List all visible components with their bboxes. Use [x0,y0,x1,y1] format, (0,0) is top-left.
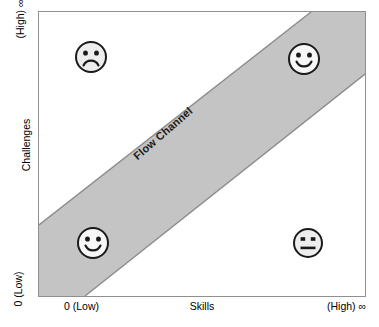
y-axis-title-text: Challenges [20,119,32,172]
flow-channel-figure: (High) ∞ Challenges 0 (Low) Flow Channel [0,0,379,327]
smiley-face-low-icon [76,226,110,260]
y-axis-high-label-text: (High) ∞ [14,0,26,39]
y-axis-low-label-text: 0 (Low) [12,271,24,306]
y-axis-high-label: (High) ∞ [0,13,36,25]
smiley-face-high-icon [287,42,321,76]
x-axis-high-label: (High) ∞ [327,300,366,312]
y-axis-title: Challenges [0,139,36,151]
x-axis-labels: 0 (Low) Skills (High) ∞ [38,300,366,320]
plot-area: Flow Channel [38,11,366,297]
y-axis-labels: (High) ∞ Challenges 0 (Low) [0,11,36,297]
sad-face-icon [74,40,108,74]
x-axis-title: Skills [190,300,215,312]
x-axis-low-label: 0 (Low) [64,300,99,312]
neutral-face-icon [291,226,325,260]
y-axis-low-label: 0 (Low) [0,283,36,295]
